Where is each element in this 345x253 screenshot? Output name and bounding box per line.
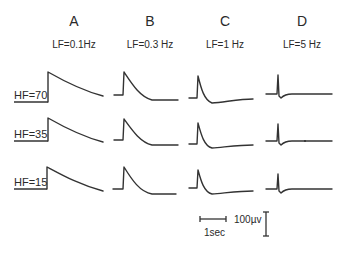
column-label-d: LF=5 Hz [283, 39, 321, 50]
time-scale-label: 1sec [204, 227, 225, 238]
trace-c-hf70 [189, 76, 253, 103]
column-letter-a: A [69, 13, 79, 29]
column-letter-c: C [220, 13, 230, 29]
trace-d-hf35 [266, 124, 332, 145]
trace-d-hf35-artifact-dot [304, 140, 306, 142]
column-headers: A B C D LF=0.1Hz LF=0.3 Hz LF=1 Hz LF=5 … [52, 13, 321, 50]
trace-a-hf35 [48, 118, 103, 142]
traces-row-hf70 [48, 72, 332, 103]
row-label-hf15: HF=15 [14, 176, 47, 188]
trace-b-hf70 [114, 72, 178, 100]
column-label-c: LF=1 Hz [206, 39, 244, 50]
trace-b-hf35 [114, 119, 178, 145]
row-labels: HF=70 HF=35 HF=15 [14, 89, 48, 189]
trace-d-hf70 [266, 75, 332, 98]
amplitude-scale-label: 100µv [234, 214, 261, 225]
column-label-a: LF=0.1Hz [52, 39, 96, 50]
traces-row-hf15 [47, 167, 332, 194]
scale-bars: 1sec 100µv [200, 212, 269, 238]
trace-b-hf15 [113, 167, 176, 194]
trace-c-hf35 [189, 123, 253, 148]
column-letter-b: B [145, 13, 154, 29]
traces-row-hf35 [48, 118, 332, 148]
row-label-hf35: HF=35 [14, 128, 47, 140]
column-label-b: LF=0.3 Hz [127, 39, 173, 50]
row-label-hf70: HF=70 [14, 89, 47, 101]
trace-a-hf15 [47, 167, 103, 191]
column-letter-d: D [297, 13, 307, 29]
trace-a-hf70 [48, 72, 103, 102]
waveform-grid-chart: A B C D LF=0.1Hz LF=0.3 Hz LF=1 Hz LF=5 … [0, 0, 345, 253]
trace-d-hf15 [266, 174, 332, 193]
trace-c-hf15 [189, 170, 253, 194]
